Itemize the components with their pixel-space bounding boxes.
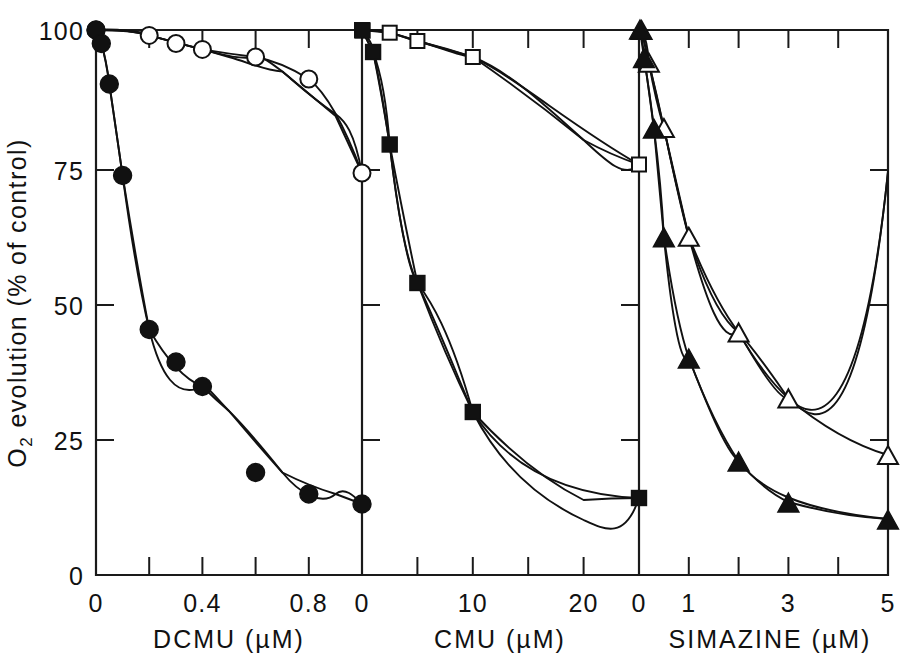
y-tick-label-25: 25 bbox=[54, 427, 84, 455]
simazine-open-triangle-curve bbox=[642, 30, 889, 410]
panel-simazine-x-ticks bbox=[689, 30, 838, 575]
simazine-axis-title: SIMAZINE (µM) bbox=[669, 625, 872, 653]
cmu-xtick-0: 0 bbox=[354, 589, 369, 617]
dcmu-axis-title: DCMU (µM) bbox=[153, 625, 305, 653]
simazine-open-triangle-curve-b bbox=[642, 30, 889, 414]
panel-dcmu-x-ticks bbox=[149, 30, 309, 575]
panel-cmu-x-tick-labels: 0 10 20 bbox=[354, 589, 598, 617]
cmu-xtick-20: 20 bbox=[568, 589, 598, 617]
panel-dcmu-axis bbox=[96, 30, 362, 575]
cmu-filled-square-markers bbox=[355, 23, 647, 506]
panel-dcmu-y-ticks bbox=[96, 170, 114, 440]
cmu-open-square-curve bbox=[362, 30, 639, 170]
simazine-xtick-1: 1 bbox=[681, 589, 696, 617]
y-tick-label-50: 50 bbox=[54, 292, 84, 320]
y-axis-title: O2 evolution (% of control) bbox=[3, 138, 36, 467]
dcmu-filled-circle-curve bbox=[96, 30, 362, 504]
panel-simazine-y-ticks bbox=[870, 170, 888, 440]
chart-canvas: 100 75 50 25 0 0 0.4 0.8 0 10 20 0 1 3 5… bbox=[0, 0, 919, 659]
cmu-open-square-curve-b bbox=[362, 30, 639, 165]
dcmu-xtick-0: 0 bbox=[88, 589, 103, 617]
simazine-xtick-5: 5 bbox=[880, 589, 895, 617]
dcmu-filled-circle-markers bbox=[87, 21, 371, 513]
panel-simazine-axis bbox=[639, 30, 888, 575]
simazine-filled-triangle-curve bbox=[640, 30, 888, 519]
cmu-axis-title: CMU (µM) bbox=[434, 625, 566, 653]
panel-dcmu bbox=[96, 30, 362, 575]
cmu-filled-square-curve-b bbox=[362, 30, 639, 498]
cmu-xtick-10: 10 bbox=[458, 589, 488, 617]
panel-simazine bbox=[639, 30, 888, 575]
figure-root: 100 75 50 25 0 0 0.4 0.8 0 10 20 0 1 3 5… bbox=[0, 0, 919, 659]
y-tick-label-0: 0 bbox=[69, 562, 84, 590]
panel-cmu-y-ticks bbox=[362, 170, 639, 440]
dcmu-xtick-0p8: 0.8 bbox=[290, 589, 328, 617]
dcmu-open-circle-curve-b bbox=[96, 30, 362, 173]
panel-cmu bbox=[362, 30, 639, 575]
panel-simazine-x-tick-labels: 0 1 3 5 bbox=[631, 589, 895, 617]
y-axis-title-subscript: 2 bbox=[17, 436, 36, 447]
simazine-xtick-0: 0 bbox=[631, 589, 646, 617]
y-tick-labels: 100 75 50 25 0 bbox=[39, 17, 84, 590]
dcmu-xtick-0p4: 0.4 bbox=[183, 589, 221, 617]
svg-text:O2 evolution (% of control): O2 evolution (% of control) bbox=[3, 138, 36, 467]
curve-overlay bbox=[96, 30, 888, 519]
y-tick-label-100: 100 bbox=[39, 17, 84, 45]
simazine-xtick-3: 3 bbox=[781, 589, 796, 617]
y-tick-label-75: 75 bbox=[54, 157, 84, 185]
dcmu-open-circle-curve bbox=[96, 30, 362, 173]
cmu-filled-square-curve bbox=[362, 30, 639, 529]
y-axis-title-o: O bbox=[3, 447, 31, 468]
y-axis-title-rest: evolution (% of control) bbox=[3, 138, 31, 436]
panel-dcmu-x-tick-labels: 0 0.4 0.8 bbox=[88, 589, 328, 617]
